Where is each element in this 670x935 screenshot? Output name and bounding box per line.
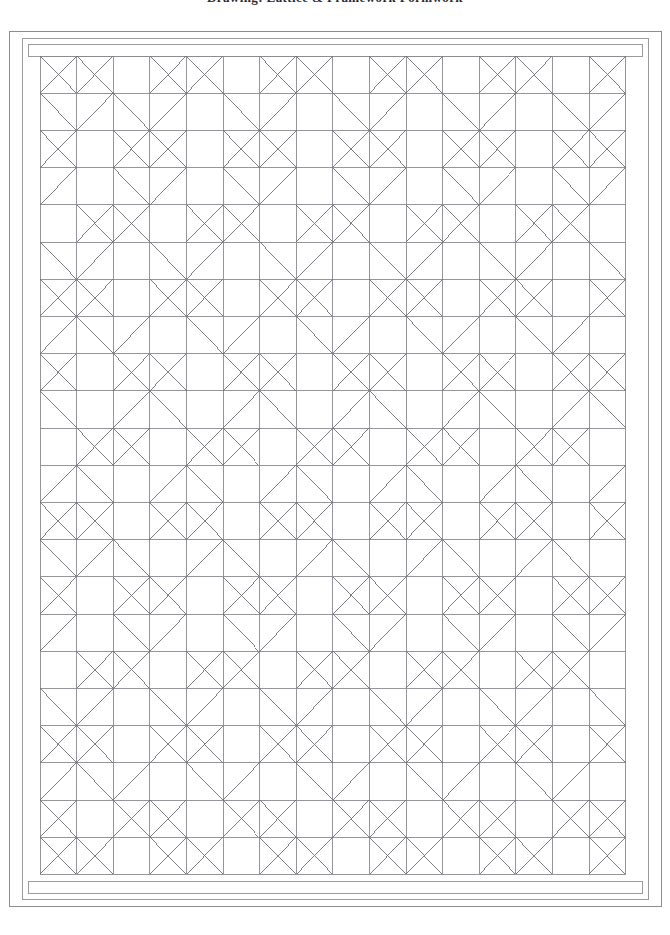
cell-diagonal-backward	[296, 763, 333, 800]
cell-diagonal-forward	[186, 688, 223, 725]
cell-diagonal-forward	[369, 614, 406, 651]
cell-diagonal-forward	[223, 316, 260, 353]
cell-diagonal-forward	[40, 316, 77, 353]
cell-diagonal-forward	[150, 93, 187, 130]
cell-diagonal-forward	[260, 465, 297, 502]
cell-diagonal-forward	[516, 242, 553, 279]
cell-diagonal-backward	[113, 540, 150, 577]
cell-diagonal-backward	[369, 242, 406, 279]
cell-diagonal-backward	[186, 763, 223, 800]
cell-diagonal-backward	[516, 763, 553, 800]
cell-diagonal-forward	[516, 688, 553, 725]
lattice-panel-drawing	[0, 0, 670, 935]
cell-diagonal-backward	[552, 540, 589, 577]
bottom-frame-band	[28, 881, 642, 893]
cell-diagonal-backward	[479, 391, 516, 428]
cell-diagonal-forward	[479, 465, 516, 502]
cell-diagonal-forward	[552, 316, 589, 353]
cell-diagonal-backward	[77, 316, 114, 353]
cell-diagonal-forward	[260, 614, 297, 651]
cell-diagonal-backward	[186, 465, 223, 502]
cell-diagonal-forward	[589, 168, 626, 205]
cell-diagonal-backward	[589, 688, 626, 725]
panel-frame	[9, 31, 661, 906]
cell-diagonal-forward	[77, 540, 114, 577]
drawing-page: Drawing: Lattice & Framework Formwork	[0, 0, 670, 935]
cell-diagonal-backward	[150, 391, 187, 428]
cell-diagonal-forward	[479, 614, 516, 651]
cell-diagonal-backward	[479, 688, 516, 725]
cell-diagonal-backward	[113, 93, 150, 130]
cell-diagonal-backward	[113, 168, 150, 205]
cell-diagonal-forward	[40, 465, 77, 502]
cell-diagonal-backward	[479, 242, 516, 279]
cell-diagonal-backward	[40, 93, 77, 130]
cell-diagonal-backward	[223, 614, 260, 651]
cell-diagonal-backward	[443, 614, 480, 651]
cell-diagonal-backward	[406, 465, 443, 502]
cell-diagonal-backward	[333, 540, 370, 577]
cell-diagonal-backward	[40, 688, 77, 725]
cell-diagonal-backward	[260, 688, 297, 725]
cell-diagonal-forward	[113, 391, 150, 428]
cell-diagonal-forward	[369, 465, 406, 502]
outer-frame-rect	[9, 31, 661, 906]
cell-diagonal-forward	[406, 540, 443, 577]
cell-diagonal-forward	[406, 688, 443, 725]
cell-diagonal-forward	[40, 763, 77, 800]
cell-diagonal-forward	[333, 316, 370, 353]
cell-diagonal-backward	[150, 688, 187, 725]
cell-diagonal-backward	[552, 93, 589, 130]
cell-diagonal-forward	[296, 688, 333, 725]
cell-diagonal-backward	[333, 614, 370, 651]
cell-diagonal-forward	[260, 93, 297, 130]
cell-diagonal-forward	[186, 540, 223, 577]
cell-diagonal-forward	[369, 93, 406, 130]
cell-diagonal-forward	[333, 391, 370, 428]
cell-diagonal-forward	[296, 242, 333, 279]
cell-diagonal-backward	[516, 316, 553, 353]
cell-diagonal-backward	[77, 763, 114, 800]
cell-diagonal-backward	[223, 168, 260, 205]
cell-diagonal-forward	[443, 391, 480, 428]
cell-diagonal-forward	[406, 242, 443, 279]
cell-diagonal-backward	[369, 391, 406, 428]
cell-diagonal-backward	[186, 316, 223, 353]
cell-diagonal-backward	[150, 242, 187, 279]
cell-diagonal-forward	[516, 540, 553, 577]
cell-diagonal-backward	[589, 391, 626, 428]
cell-diagonal-backward	[406, 763, 443, 800]
cell-diagonal-forward	[443, 763, 480, 800]
cell-diagonal-backward	[369, 688, 406, 725]
cell-diagonal-backward	[40, 540, 77, 577]
cell-diagonal-forward	[150, 168, 187, 205]
cell-diagonal-forward	[552, 763, 589, 800]
cell-diagonal-forward	[223, 763, 260, 800]
cell-diagonal-forward	[552, 391, 589, 428]
cell-diagonal-backward	[40, 242, 77, 279]
cell-diagonal-backward	[77, 465, 114, 502]
cell-diagonal-backward	[113, 614, 150, 651]
cell-diagonal-backward	[333, 168, 370, 205]
cell-diagonal-forward	[113, 316, 150, 353]
cell-diagonal-forward	[589, 93, 626, 130]
cell-diagonal-backward	[40, 391, 77, 428]
cell-diagonal-backward	[260, 242, 297, 279]
cell-diagonal-backward	[223, 93, 260, 130]
cell-diagonal-forward	[333, 763, 370, 800]
cell-diagonal-backward	[516, 465, 553, 502]
cell-diagonal-backward	[406, 316, 443, 353]
cell-diagonal-backward	[223, 540, 260, 577]
cell-diagonal-forward	[479, 168, 516, 205]
cell-diagonal-backward	[443, 93, 480, 130]
cell-diagonal-forward	[260, 168, 297, 205]
top-frame-band	[28, 44, 642, 56]
cell-diagonal-backward	[589, 242, 626, 279]
cell-diagonal-forward	[296, 540, 333, 577]
cell-diagonal-forward	[77, 688, 114, 725]
cell-diagonal-backward	[443, 168, 480, 205]
cell-diagonal-backward	[260, 391, 297, 428]
cell-diagonal-forward	[77, 93, 114, 130]
cell-diagonal-backward	[552, 614, 589, 651]
cell-diagonal-forward	[589, 465, 626, 502]
